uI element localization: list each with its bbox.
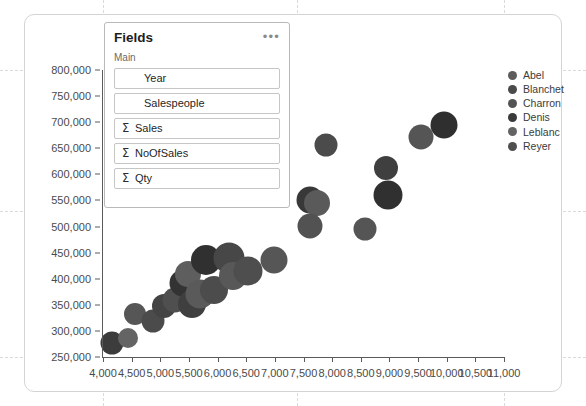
scatter-bubble[interactable] [118,328,138,348]
y-axis-tick-mark [95,148,100,149]
x-axis-tick-mark [418,357,419,362]
x-axis-tick-mark [160,357,161,362]
legend-item-label: Abel [523,70,544,81]
y-axis-tick-label: 550,000 [51,194,91,206]
legend-item-label: Blanchet [523,84,564,95]
y-axis-tick-mark [95,357,100,358]
y-axis-tick-label: 500,000 [51,221,91,233]
legend-swatch-icon [508,85,517,94]
x-axis-tick-label: 5,000 [147,367,175,379]
y-axis-tick-label: 650,000 [51,142,91,154]
x-axis-tick-label: 9,500 [404,367,432,379]
legend-swatch-icon [508,113,517,122]
y-axis-tick-label: 450,000 [51,247,91,259]
scatter-bubble[interactable] [233,256,262,285]
legend-item-label: Denis [523,112,550,123]
x-axis-tick-mark [275,357,276,362]
field-item-sales[interactable]: ΣSales [114,118,280,139]
y-axis-tick-label: 700,000 [51,116,91,128]
x-axis-tick-label: 9,000 [376,367,404,379]
x-axis-tick-label: 4,500 [118,367,146,379]
x-axis: 4,0004,5005,0005,5006,0006,5007,0007,500… [103,357,505,385]
x-axis-tick-label: 8,000 [318,367,346,379]
legend-item-leblanc[interactable]: Leblanc [508,125,564,139]
field-item-salespeople[interactable]: Salespeople [114,93,280,114]
field-item-qty[interactable]: ΣQty [114,168,280,189]
legend-item-abel[interactable]: Abel [508,68,564,82]
legend-item-label: Leblanc [523,127,560,138]
legend-item-denis[interactable]: Denis [508,111,564,125]
sigma-icon: Σ [122,146,135,160]
fields-list: YearSalespeopleΣSalesΣNoOfSalesΣQty [114,68,280,189]
x-axis-tick-label: 4,000 [89,367,117,379]
y-axis-tick-mark [95,226,100,227]
field-item-year[interactable]: Year [114,68,280,89]
x-axis-tick-label: 6,000 [204,367,232,379]
field-item-label: Year [144,72,166,84]
sigma-icon: Σ [122,171,135,185]
fields-panel-subtitle: Main [114,52,280,63]
x-axis-tick-mark [218,357,219,362]
x-axis-tick-mark [246,357,247,362]
field-item-label: Qty [135,172,152,184]
y-axis-tick-label: 600,000 [51,168,91,180]
x-axis-tick-mark [504,357,505,362]
legend-swatch-icon [508,127,517,136]
y-axis-tick-mark [95,278,100,279]
x-axis-tick-mark [304,357,305,362]
scatter-bubble[interactable] [374,156,398,180]
y-axis: 250,000300,000350,000400,000450,000500,0… [0,70,100,358]
scatter-bubble[interactable] [353,217,376,240]
x-axis-tick-mark [475,357,476,362]
x-axis-tick-label: 8,500 [347,367,375,379]
x-axis-tick-label: 7,000 [261,367,289,379]
x-axis-tick-mark [389,357,390,362]
legend-swatch-icon [508,99,517,108]
scatter-bubble[interactable] [373,180,402,209]
scatter-bubble[interactable] [315,133,338,156]
x-axis-tick-label: 7,500 [290,367,318,379]
scatter-bubble[interactable] [298,214,323,239]
legend-swatch-icon [508,142,517,151]
y-axis-tick-mark [95,122,100,123]
legend-item-reyer[interactable]: Reyer [508,139,564,153]
y-axis-tick-label: 300,000 [51,325,91,337]
y-axis-tick-mark [95,330,100,331]
legend-item-label: Charron [523,98,561,109]
legend-item-charron[interactable]: Charron [508,96,564,110]
y-axis-tick-label: 800,000 [51,64,91,76]
y-axis-tick-label: 400,000 [51,273,91,285]
scatter-bubble[interactable] [260,246,287,273]
x-axis-tick-label: 5,500 [175,367,203,379]
y-axis-tick-mark [95,304,100,305]
scatter-bubble[interactable] [430,112,457,139]
x-axis-tick-mark [189,357,190,362]
legend-swatch-icon [508,71,517,80]
field-item-noofsales[interactable]: ΣNoOfSales [114,143,280,164]
fields-panel-header: Fields ••• [114,31,280,45]
y-axis-tick-mark [95,96,100,97]
y-axis-tick-mark [95,70,100,71]
scatter-bubble[interactable] [304,190,330,216]
y-axis-tick-label: 250,000 [51,351,91,363]
y-axis-tick-mark [95,174,100,175]
y-axis-tick-label: 750,000 [51,90,91,102]
field-item-label: Sales [135,122,163,134]
legend: AbelBlanchetCharronDenisLeblancReyer [508,68,564,153]
y-axis-line [102,70,103,358]
y-axis-tick-label: 350,000 [51,299,91,311]
fields-panel[interactable]: Fields ••• Main YearSalespeopleΣSalesΣNo… [104,22,290,208]
x-axis-tick-mark [332,357,333,362]
x-axis-tick-mark [132,357,133,362]
legend-item-label: Reyer [523,141,551,152]
x-axis-tick-label: 11,000 [488,367,521,379]
field-item-label: NoOfSales [135,147,188,159]
legend-item-blanchet[interactable]: Blanchet [508,82,564,96]
x-axis-tick-mark [447,357,448,362]
sigma-icon: Σ [122,121,135,135]
x-axis-tick-mark [361,357,362,362]
field-item-label: Salespeople [144,97,205,109]
more-options-icon[interactable]: ••• [263,31,280,41]
x-axis-tick-label: 6,500 [232,367,260,379]
y-axis-tick-mark [95,200,100,201]
